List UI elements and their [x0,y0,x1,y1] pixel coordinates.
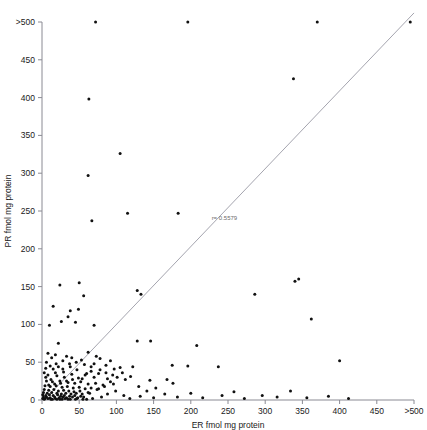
data-point [154,386,157,389]
data-point [100,395,103,398]
data-point [99,368,102,371]
x-tick-label: 350 [295,406,309,416]
data-point [55,374,58,377]
data-point [55,362,58,365]
data-point [67,389,70,392]
data-point [139,293,142,296]
data-point [136,340,139,343]
data-point [112,383,115,386]
data-point [186,364,189,367]
data-point [60,320,63,323]
data-point [45,361,48,364]
data-point [46,397,49,400]
data-point [87,174,90,177]
data-point [70,356,73,359]
data-point [87,98,90,101]
data-point [293,280,296,283]
x-axis-ticks: 050100150200250300350400450>500 [40,400,424,416]
data-point [45,380,48,383]
x-tick-label: >500 [404,406,423,416]
data-point [78,281,81,284]
data-point [292,77,295,80]
data-point [96,388,99,391]
data-point [70,373,73,376]
scatter-plot-figure: 050100150200250300350400450>500 05010015… [0,0,427,430]
data-point [63,376,66,379]
y-tick-label: 50 [26,357,36,367]
data-point [261,394,264,397]
data-point [90,365,93,368]
x-tick-label: 100 [109,406,123,416]
data-point [71,395,74,398]
data-point [310,318,313,321]
data-point [48,324,51,327]
data-point [119,152,122,155]
data-point [56,393,59,396]
x-tick-label: 200 [184,406,198,416]
chart-canvas: 050100150200250300350400450>500 05010015… [0,0,427,430]
data-point [57,365,60,368]
data-point [163,392,166,395]
data-point [87,383,90,386]
data-point [43,384,46,387]
data-point [297,278,300,281]
data-point [129,375,132,378]
data-point [57,342,60,345]
data-point [52,388,55,391]
data-point [327,395,330,398]
data-point [119,366,122,369]
data-point [79,395,82,398]
data-point [109,359,112,362]
data-point [61,398,64,401]
data-point [104,371,107,374]
data-point [61,386,64,389]
y-axis-title: PR fmol mg protein [3,174,13,247]
data-point [186,21,189,24]
y-tick-label: 400 [21,93,35,103]
y-tick-label: 350 [21,130,35,140]
data-point [46,374,49,377]
data-point [78,386,81,389]
data-point [55,398,58,401]
data-point [87,391,90,394]
data-point [114,389,117,392]
data-point [85,398,88,401]
data-point [83,363,86,366]
data-point [67,398,70,401]
data-point [316,21,319,24]
data-point [77,308,80,311]
data-point [148,379,151,382]
data-point [113,368,116,371]
data-point [64,397,67,400]
data-point [52,368,55,371]
data-point [81,398,84,401]
data-point [49,364,52,367]
x-tick-label: 150 [147,406,161,416]
data-point [128,397,131,400]
x-axis-title: ER fmol mg protein [192,420,265,430]
data-point [103,385,106,388]
data-point [71,378,74,381]
y-tick-label: 300 [21,168,35,178]
data-point [82,294,85,297]
data-point [106,392,109,395]
data-point [84,374,87,377]
data-point [409,21,412,24]
data-point [81,377,84,380]
data-point [84,387,87,390]
data-point [61,359,64,362]
data-point [44,367,47,370]
data-point [305,396,308,399]
identity-reference-line [44,13,414,400]
data-point [116,376,119,379]
data-point [53,383,56,386]
data-point [65,380,68,383]
data-point [65,355,68,358]
reference-line-group [44,13,414,400]
data-point [131,365,134,368]
y-tick-label: >500 [16,17,35,27]
data-point [217,365,220,368]
data-point [80,358,83,361]
x-tick-label: 50 [74,406,84,416]
data-point [124,378,127,381]
